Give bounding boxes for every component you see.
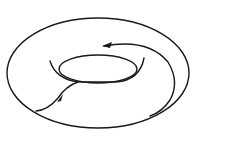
torus-outer-boundary [7, 18, 189, 128]
torus-hole-lower-edge [59, 55, 137, 83]
torus-diagram [0, 0, 233, 142]
longitude-arrow-icon [102, 42, 112, 48]
meridian-path [36, 82, 78, 111]
longitude-path [104, 44, 175, 116]
